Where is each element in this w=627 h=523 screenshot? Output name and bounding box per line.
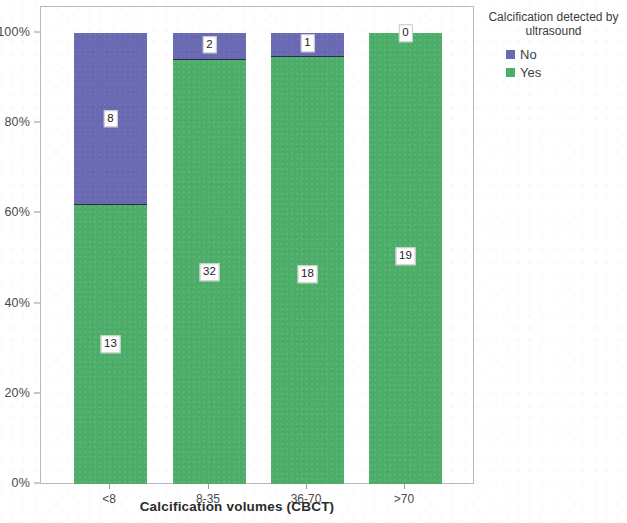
data-label-yes: 19: [395, 247, 416, 265]
data-label-no: 2: [202, 36, 216, 54]
data-label-no: 1: [300, 35, 314, 53]
data-label-yes: 13: [100, 335, 121, 353]
data-label-yes: 32: [199, 263, 220, 281]
legend-swatch-yes-icon: [504, 66, 517, 79]
x-axis-title: Calcification volumes (CBCT): [0, 499, 474, 514]
legend-title: Calcification detected by ultrasound: [478, 6, 627, 38]
bar-group-lt8[interactable]: 8 13: [74, 33, 147, 484]
y-tick-label-80: 80%: [4, 115, 30, 129]
y-tick-label-60: 60%: [4, 205, 30, 219]
legend-items: No Yes: [478, 45, 627, 81]
x-tick-mark-36-70: [306, 484, 307, 489]
bar-group-gt70[interactable]: 0 19: [369, 33, 442, 484]
legend-item-label: No: [520, 48, 537, 61]
bar-group-36-70[interactable]: 1 18: [271, 33, 344, 484]
data-label-no: 0: [398, 24, 412, 42]
plot-frame: 8 13 2 32 1 18 0 19: [40, 6, 474, 484]
data-label-no: 8: [103, 110, 117, 128]
data-label-yes: 18: [297, 266, 318, 284]
stacked-bar-chart-figure: 100% 80% 60% 40% 20% 0% 8 13 2: [0, 0, 627, 523]
x-tick-mark-lt8: [109, 484, 110, 489]
legend-item-no[interactable]: No: [504, 45, 627, 63]
y-tick-label-0: 0%: [12, 476, 30, 490]
legend: Calcification detected by ultrasound No …: [478, 6, 627, 81]
x-tick-mark-gt70: [404, 484, 405, 489]
legend-item-label: Yes: [520, 66, 541, 79]
plot-area: 8 13 2 32 1 18 0 19: [74, 33, 475, 484]
y-axis: 100% 80% 60% 40% 20% 0%: [0, 0, 40, 523]
legend-swatch-no-icon: [504, 48, 517, 61]
y-tick-label-100: 100%: [0, 25, 30, 39]
y-tick-label-40: 40%: [4, 296, 30, 310]
y-tick-label-20: 20%: [4, 386, 30, 400]
x-tick-mark-8-35: [208, 484, 209, 489]
legend-item-yes[interactable]: Yes: [504, 63, 627, 81]
bar-group-8-35[interactable]: 2 32: [173, 33, 246, 484]
